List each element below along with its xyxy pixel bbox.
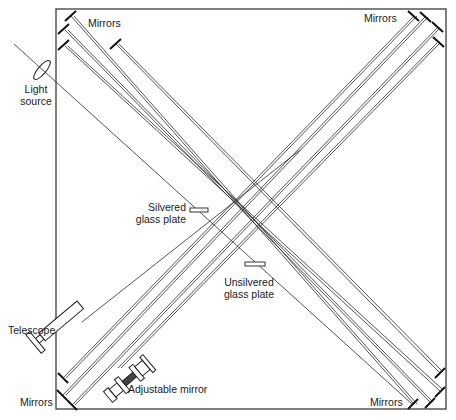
apparatus-frame	[56, 9, 446, 409]
beams-down-right	[14, 16, 442, 404]
beams-up-right	[63, 16, 440, 405]
mirrors-top-right-label: Mirrors	[364, 12, 397, 24]
light-source-label-line2: source	[16, 95, 56, 107]
silvered-plate-label-line2: glass plate	[126, 213, 186, 225]
adjustable-mirror-label: Adjustable mirror	[128, 383, 207, 395]
silvered-glass-plate	[190, 208, 208, 212]
mirrors-top-left-label: Mirrors	[88, 17, 121, 29]
silvered-plate-label: Silvered glass plate	[126, 201, 186, 225]
unsilvered-glass-plate	[245, 262, 265, 266]
mirrors-bottom-right	[408, 368, 445, 409]
telescope-label: Telescope	[8, 324, 55, 336]
light-source-label: Light source	[16, 83, 56, 107]
mirrors-bottom-right-label: Mirrors	[370, 396, 403, 408]
adjustable-mirror-icon	[102, 355, 156, 405]
unsilvered-plate-label: Unsilvered glass plate	[214, 276, 284, 300]
mirrors-bottom-left-label: Mirrors	[20, 396, 53, 408]
interferometer-diagram	[0, 0, 456, 420]
light-source-label-line1: Light	[16, 83, 56, 95]
unsilvered-plate-label-line2: glass plate	[214, 288, 284, 300]
light-source-lens-icon	[31, 58, 53, 82]
mirrors-bottom-left	[57, 373, 77, 410]
silvered-plate-label-line1: Silvered	[126, 201, 186, 213]
unsilvered-plate-label-line1: Unsilvered	[214, 276, 284, 288]
